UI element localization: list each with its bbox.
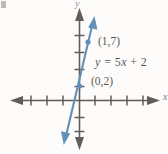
equation-plus-sign: + bbox=[130, 55, 137, 69]
equation-intercept-value: 2 bbox=[141, 55, 147, 69]
point-label-0-2: (0,2) bbox=[91, 76, 113, 88]
x-axis-label: x bbox=[163, 92, 167, 102]
point-label-1-7: (1,7) bbox=[98, 36, 120, 48]
line-upper-arrowhead bbox=[88, 16, 97, 30]
coordinate-plane-graphic bbox=[0, 0, 168, 154]
y-axis-top-arrowhead bbox=[75, 8, 84, 21]
x-axis-left-arrowhead bbox=[10, 96, 23, 105]
y-axis-bottom-arrowhead bbox=[75, 137, 84, 150]
x-axis-right-arrowhead bbox=[147, 96, 160, 105]
math-figure-screenshot: (1,7) (0,2) y = 5x + 2 x y bbox=[0, 0, 168, 154]
y-axis-label: y bbox=[75, 0, 79, 9]
equation-label: y = 5x + 2 bbox=[95, 56, 147, 68]
equation-variable-y: y bbox=[95, 55, 101, 69]
equation-equals-sign: = bbox=[104, 55, 111, 69]
point-marker-0-2 bbox=[77, 83, 82, 88]
line-lower-arrowhead bbox=[61, 131, 70, 145]
x-axis bbox=[10, 96, 160, 106]
equation-variable-x: x bbox=[121, 55, 127, 69]
point-marker-1-7 bbox=[85, 39, 90, 44]
